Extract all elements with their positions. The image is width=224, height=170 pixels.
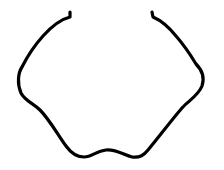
outline-shape [0, 0, 224, 170]
drawing-canvas [0, 0, 224, 170]
shape-outline-path [18, 12, 203, 157]
